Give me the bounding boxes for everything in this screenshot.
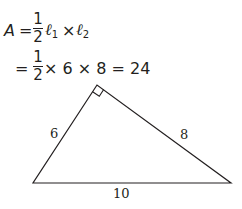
triangle-outline bbox=[33, 85, 231, 183]
right-leg-label: 8 bbox=[180, 127, 188, 142]
hypotenuse-label: 10 bbox=[113, 186, 130, 201]
left-leg-label: 6 bbox=[50, 126, 58, 141]
right-angle-marker-icon bbox=[93, 90, 104, 97]
right-triangle-diagram: 6 8 10 bbox=[0, 0, 242, 209]
